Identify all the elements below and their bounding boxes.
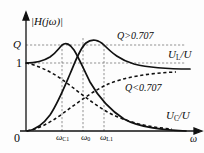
annotation-q-low: Q<0.707 <box>125 83 161 93</box>
x-tick-w0: ω0 <box>81 133 90 143</box>
annotation-uc-over-u: UC/U <box>166 110 190 123</box>
x-axis-label: ω <box>190 134 197 144</box>
origin-label: 0 <box>14 132 20 144</box>
y-tick-1: 1 <box>16 57 22 69</box>
x-tick-wl1-sub: L1 <box>106 136 113 142</box>
annotation-q-high: Q>0.707 <box>117 31 153 41</box>
x-tick-w0-sub: 0 <box>87 136 90 142</box>
x-tick-wl1: ωL1 <box>100 133 113 143</box>
annotation-uc-tail: /U <box>179 109 190 121</box>
annotation-uc-base: U <box>166 109 174 121</box>
guide-lines <box>26 38 186 131</box>
curve-ul-low-q <box>27 72 176 131</box>
y-axis-arrow <box>23 12 29 20</box>
annotation-ul-over-u: UL/U <box>168 49 191 62</box>
y-axis-label: |H(jω)| <box>31 16 63 27</box>
curve-uc-high-q <box>26 44 186 131</box>
x-tick-wc1-sub: C1 <box>62 136 69 142</box>
x-tick-wc1: ωC1 <box>56 133 69 143</box>
y-tick-q: Q <box>13 39 21 50</box>
annotation-ul-base: U <box>168 48 176 60</box>
frequency-response-figure: |H(jω)| Q 1 0 ω ωC1 ω0 ωL1 Q>0.707 Q<0.7… <box>0 0 204 153</box>
annotation-ul-tail: /U <box>180 48 191 60</box>
